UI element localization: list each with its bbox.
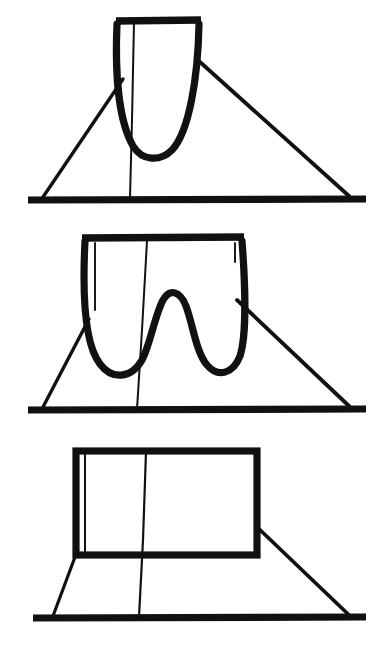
panel-2-baseline — [28, 409, 366, 410]
panel-1-top-bar — [116, 20, 201, 21]
panel-2-top-bar — [82, 237, 244, 238]
panel-3-baseline — [33, 617, 366, 618]
figure-root — [0, 0, 390, 655]
diagram-canvas — [0, 0, 390, 655]
panel-1-baseline — [28, 199, 366, 200]
